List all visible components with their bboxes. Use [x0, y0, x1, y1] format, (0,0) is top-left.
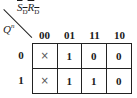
kmap-cell-r1-c0: ×	[33, 69, 58, 94]
kmap-cell-r0-c2: 0	[82, 44, 107, 69]
row-variable-label: Qn	[3, 22, 14, 35]
column-header-01: 01	[57, 29, 82, 41]
column-header-10: 10	[107, 29, 132, 41]
row-header-1: 1	[14, 74, 28, 86]
column-header-00: 00	[32, 29, 57, 41]
kmap-cell-r1-c1: 1	[58, 69, 83, 94]
column-header-11: 11	[82, 29, 107, 41]
kmap-cell-r1-c3: 0	[107, 69, 132, 94]
column-variable-label: SDRD	[17, 1, 39, 16]
kmap-cell-r0-c1: 1	[58, 44, 83, 69]
kmap-cell-r0-c0: ×	[33, 44, 58, 69]
kmap-cell-r0-c3: 0	[107, 44, 132, 69]
kmap-cell-r1-c2: 1	[82, 69, 107, 94]
row-header-0: 0	[14, 49, 28, 61]
karnaugh-map-grid: × 1 0 0 × 1 1 0	[32, 43, 132, 94]
